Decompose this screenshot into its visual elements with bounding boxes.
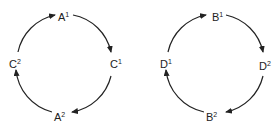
node-superscript: 2	[213, 111, 217, 118]
node-label: C	[9, 58, 17, 70]
node-superscript: 1	[168, 58, 172, 65]
arrow-c2-to-a1	[18, 15, 55, 52]
node-superscript: 1	[118, 58, 122, 65]
cycle-diagram	[0, 0, 279, 130]
node-c1: C1	[110, 56, 122, 70]
node-superscript: 2	[17, 58, 21, 65]
node-superscript: 1	[65, 11, 69, 18]
node-b1: B1	[212, 9, 223, 23]
node-label: D	[160, 58, 168, 70]
node-superscript: 2	[267, 60, 271, 67]
node-d1: D1	[160, 56, 172, 70]
arrow-d1-to-b1	[168, 15, 206, 52]
arrow-a1-to-c1	[73, 15, 111, 52]
node-a2: A2	[54, 109, 65, 123]
node-superscript: 1	[219, 11, 223, 18]
arrow-b2-to-d1	[166, 70, 204, 112]
node-d2: D2	[259, 58, 271, 72]
cycle-right-arrows	[166, 15, 263, 112]
node-label: C	[110, 58, 118, 70]
node-c2: C2	[9, 56, 21, 70]
node-b2: B2	[206, 109, 217, 123]
node-a1: A1	[58, 9, 69, 23]
arrow-d2-to-b2	[226, 76, 263, 112]
arrow-b1-to-d2	[226, 15, 263, 52]
arrow-a2-to-c2	[16, 70, 52, 112]
cycle-left-arrows	[16, 15, 111, 112]
node-label: D	[259, 60, 267, 72]
node-superscript: 2	[61, 111, 65, 118]
arrow-c1-to-a2	[72, 76, 111, 112]
